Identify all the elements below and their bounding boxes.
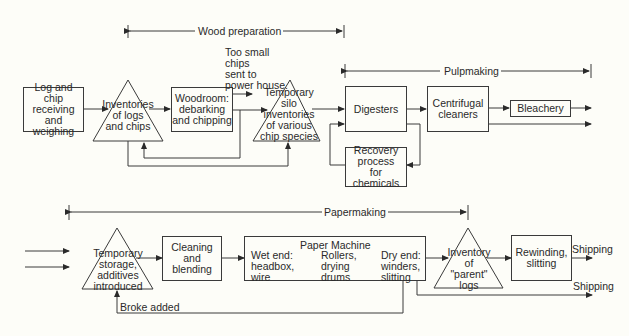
phase-papermaking: Papermaking	[322, 207, 388, 218]
log-receiving-label: Log and chip receiving and weighing	[24, 82, 83, 137]
too-small-chips-note: Too small chips sent to power house.	[225, 47, 288, 91]
rewinding-label: Rewinding, slitting	[516, 247, 568, 269]
inventories-logs-label: Inventories of logs and chips	[98, 99, 158, 132]
phase-wood-preparation: Wood preparation	[196, 26, 283, 37]
digesters-box: Digesters	[345, 86, 407, 132]
wet-end-label: Wet end: headbox, wire	[251, 250, 294, 283]
bleachery-box: Bleachery	[510, 100, 571, 117]
temporary-silo-label: Temporary silo inventories of various ch…	[257, 87, 321, 142]
log-receiving-box: Log and chip receiving and weighing	[23, 87, 84, 132]
recovery-box: Recovery process for chemicals	[345, 147, 407, 187]
centrifugal-cleaners-label: Centrifugal cleaners	[433, 98, 484, 120]
broke-added-label: Broke added	[120, 302, 180, 313]
woodroom-box: Woodroom: debarking and chipping	[171, 87, 233, 132]
woodroom-label: Woodroom: debarking and chipping	[172, 93, 232, 126]
rollers-label: Rollers, drying drums	[321, 250, 357, 283]
inventory-parent-logs-label: Inventory of "parent" logs	[440, 247, 498, 291]
centrifugal-cleaners-box: Centrifugal cleaners	[427, 86, 489, 132]
digesters-label: Digesters	[354, 104, 398, 115]
phase-pulpmaking: Pulpmaking	[442, 66, 501, 77]
shipping-label-2: Shipping	[573, 281, 614, 292]
dry-end-label: Dry end: winders, slitting	[381, 250, 421, 283]
temporary-storage-label: Temporary storage, additives introduced	[88, 248, 148, 292]
cleaning-blending-label: Cleaning and blending	[171, 242, 212, 275]
rewinding-box: Rewinding, slitting	[511, 235, 572, 281]
paper-machine-box: Paper Machine Wet end: headbox, wire Rol…	[244, 236, 426, 281]
cleaning-blending-box: Cleaning and blending	[162, 236, 222, 281]
shipping-label-1: Shipping	[572, 244, 613, 255]
recovery-label: Recovery process for chemicals	[346, 145, 406, 189]
bleachery-label: Bleachery	[517, 103, 564, 114]
